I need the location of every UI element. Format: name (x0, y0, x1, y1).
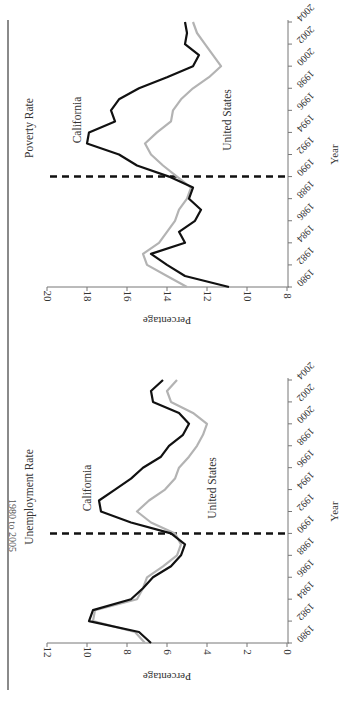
united-states-label: United States (206, 457, 218, 519)
california-line (89, 380, 189, 643)
year-tick-label: 1986 (295, 557, 317, 579)
california-line (87, 22, 229, 287)
year-tick-label: 1992 (295, 134, 317, 156)
united-states-line (93, 380, 207, 643)
chart-title: Unemployment Rate (23, 449, 36, 545)
value-tick-label: 20 (42, 291, 54, 303)
year-tick-label: 1980 (295, 267, 317, 289)
x-axis-title: Year (328, 144, 340, 165)
year-tick-label: 1984 (295, 579, 317, 601)
value-tick-label: 12 (42, 647, 54, 658)
united-states-line (143, 22, 221, 287)
year-tick-label: 1988 (295, 535, 317, 557)
year-tick-label: 1994 (295, 470, 317, 492)
year-tick-label: 1998 (295, 68, 317, 90)
year-tick-label: 1990 (295, 513, 317, 535)
united-states-label: United States (221, 89, 233, 151)
unemployment-rate-chart: 024681012Percentage198019821984198619881… (23, 360, 340, 683)
year-tick-label: 1992 (295, 491, 317, 513)
year-tick-label: 1988 (295, 179, 317, 201)
year-tick-label: 1996 (295, 448, 317, 470)
year-tick-label: 1996 (295, 90, 317, 112)
year-tick-label: 2002 (295, 382, 317, 404)
chart-title: Poverty Rate (23, 98, 36, 158)
y-axis-title: Percentage (143, 315, 191, 327)
year-tick-label: 1980 (295, 623, 317, 645)
value-tick-label: 10 (82, 647, 94, 659)
year-tick-label: 1994 (295, 112, 317, 134)
x-axis-title: Year (328, 501, 340, 522)
value-tick-label: 10 (242, 291, 254, 303)
year-tick-label: 2004 (295, 360, 317, 382)
year-tick-label: 1982 (295, 601, 317, 623)
charts-canvas: 8101214161820Percentage19801982198419861… (0, 0, 363, 704)
value-tick-label: 12 (202, 291, 214, 302)
value-tick-label: 18 (82, 291, 94, 303)
california-label: California (71, 97, 83, 144)
value-tick-label: 2 (242, 649, 254, 655)
california-label: California (81, 465, 93, 512)
value-tick-label: 8 (122, 649, 134, 655)
year-tick-label: 2000 (295, 404, 317, 426)
year-tick-label: 1986 (295, 201, 317, 223)
year-tick-label: 1990 (295, 157, 317, 179)
year-tick-label: 1984 (295, 223, 317, 245)
value-tick-label: 8 (282, 293, 294, 299)
year-tick-label: 2004 (295, 2, 317, 24)
value-tick-label: 16 (122, 291, 134, 303)
poverty-rate-chart: 8101214161820Percentage19801982198419861… (23, 2, 340, 327)
year-tick-label: 2002 (295, 24, 317, 46)
value-tick-label: 4 (202, 649, 214, 655)
year-tick-label: 1982 (295, 245, 317, 267)
year-tick-label: 1998 (295, 426, 317, 448)
value-tick-label: 0 (282, 649, 294, 655)
y-axis-title: Percentage (143, 671, 191, 683)
year-tick-label: 2000 (295, 46, 317, 68)
value-tick-label: 14 (162, 291, 174, 303)
value-tick-label: 6 (162, 649, 174, 655)
